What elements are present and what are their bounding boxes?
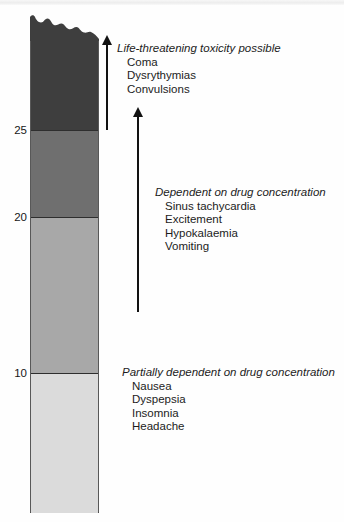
symptom-item: Coma xyxy=(127,56,281,70)
bar-segment-10-20 xyxy=(31,217,98,373)
toxicity-diagram: 25 20 10 Life-threatening toxicity possi… xyxy=(0,0,344,522)
concentration-bar xyxy=(30,41,99,513)
scale-label-10: 10 xyxy=(8,366,27,380)
symptom-item: Dysrythymias xyxy=(127,69,281,83)
page-edge-artifact xyxy=(0,0,344,5)
bar-segment-20-25 xyxy=(31,130,98,217)
scale-label-25: 25 xyxy=(8,123,27,137)
annotation-dependent: Dependent on drug concentration Sinus ta… xyxy=(155,186,326,254)
symptom-item: Dyspepsia xyxy=(132,393,335,407)
bar-torn-top-shape xyxy=(30,15,99,42)
bar-segment-below-10 xyxy=(31,373,98,513)
annotation-heading: Life-threatening toxicity possible xyxy=(117,42,281,56)
upper-arrow-line xyxy=(106,44,108,130)
annotation-partially-dependent: Partially dependent on drug concentratio… xyxy=(122,366,335,434)
symptom-item: Convulsions xyxy=(127,83,281,97)
symptom-item: Excitement xyxy=(165,213,326,227)
annotation-life-threatening: Life-threatening toxicity possible Coma … xyxy=(117,42,281,96)
scale-label-20: 20 xyxy=(8,210,27,224)
mid-arrow-head-icon xyxy=(133,107,143,117)
symptom-item: Headache xyxy=(132,420,335,434)
mid-arrow-line xyxy=(137,117,139,312)
annotation-heading: Dependent on drug concentration xyxy=(155,186,326,200)
bar-segment-above-25 xyxy=(31,41,98,130)
symptom-item: Nausea xyxy=(132,380,335,394)
bar-torn-top xyxy=(30,14,99,42)
symptom-item: Hypokalaemia xyxy=(165,227,326,241)
symptom-item: Sinus tachycardia xyxy=(165,200,326,214)
annotation-heading: Partially dependent on drug concentratio… xyxy=(122,366,335,380)
symptom-item: Insomnia xyxy=(132,407,335,421)
symptom-item: Vomiting xyxy=(165,240,326,254)
